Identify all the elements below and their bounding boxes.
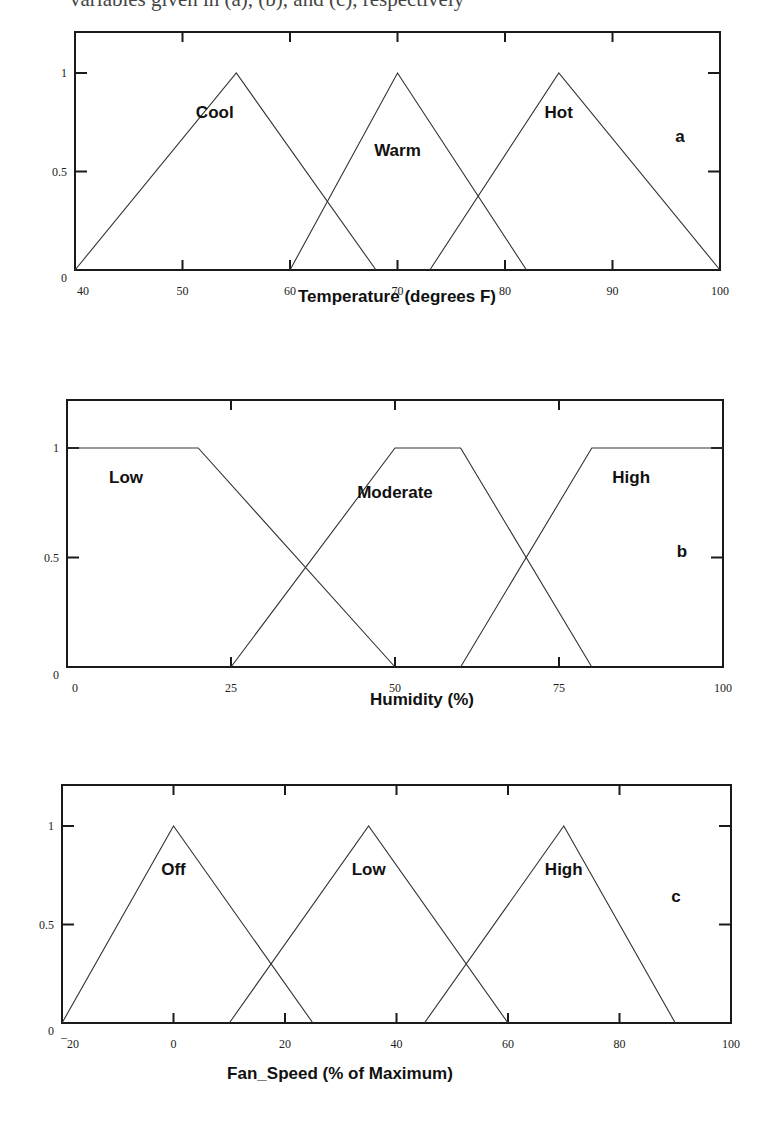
plot-frame [62, 785, 731, 1023]
x-tick-label: 75 [553, 681, 565, 695]
chart-panel-b: 025507510000.51LowModerateHighbHumidity … [44, 400, 732, 709]
set-label-high: High [545, 860, 583, 879]
panel-label: b [677, 542, 687, 561]
plot-frame [67, 400, 723, 667]
membership-curve-high [424, 826, 675, 1023]
x-axis-title: Fan_Speed (% of Maximum) [227, 1064, 453, 1083]
membership-curve-low [229, 826, 508, 1023]
set-label-cool: Cool [196, 103, 234, 122]
x-tick-label: 90 [607, 284, 619, 298]
set-label-off: Off [161, 860, 186, 879]
y-tick-label: 1 [61, 66, 67, 80]
x-tick-label: 60 [502, 1037, 514, 1051]
panel-label: a [675, 127, 685, 146]
y-tick-label: 1 [53, 441, 59, 455]
x-axis-title: Temperature (degrees F) [298, 287, 496, 306]
membership-functions-figure: 40506070809010000.51CoolWarmHotaTemperat… [0, 0, 769, 1125]
set-label-low: Low [109, 468, 144, 487]
set-label-hot: Hot [545, 103, 574, 122]
set-label-warm: Warm [374, 141, 421, 160]
y-tick-label: 0 [53, 668, 59, 682]
x-tick-label: 80 [499, 284, 511, 298]
x-tick-label: 100 [714, 681, 732, 695]
set-label-high: High [612, 468, 650, 487]
x-tick-label: 25 [225, 681, 237, 695]
x-tick-label: ¯20 [60, 1037, 79, 1051]
chart-panel-c: ¯2002040608010000.51OffLowHighcFan_Speed… [39, 785, 740, 1083]
set-label-low: Low [352, 860, 387, 879]
x-tick-label: 0 [72, 681, 78, 695]
membership-curve-hot [430, 73, 720, 270]
y-tick-label: 0 [61, 271, 67, 285]
y-tick-label: 0.5 [39, 918, 54, 932]
x-tick-label: 20 [279, 1037, 291, 1051]
panel-label: c [671, 887, 680, 906]
x-tick-label: 100 [711, 284, 729, 298]
x-tick-label: 60 [284, 284, 296, 298]
set-label-moderate: Moderate [357, 483, 433, 502]
y-tick-label: 1 [48, 819, 54, 833]
y-tick-label: 0 [48, 1024, 54, 1038]
chart-panel-a: 40506070809010000.51CoolWarmHotaTemperat… [52, 32, 729, 306]
x-tick-label: 40 [77, 284, 89, 298]
membership-curve-off [62, 826, 313, 1023]
x-tick-label: 100 [722, 1037, 740, 1051]
x-tick-label: 0 [171, 1037, 177, 1051]
y-tick-label: 0.5 [52, 165, 67, 179]
x-tick-label: 80 [614, 1037, 626, 1051]
x-tick-label: 40 [391, 1037, 403, 1051]
x-axis-title: Humidity (%) [370, 690, 474, 709]
membership-curve-moderate [231, 448, 592, 667]
y-tick-label: 0.5 [44, 551, 59, 565]
x-tick-label: 50 [177, 284, 189, 298]
membership-curve-warm [290, 73, 527, 270]
